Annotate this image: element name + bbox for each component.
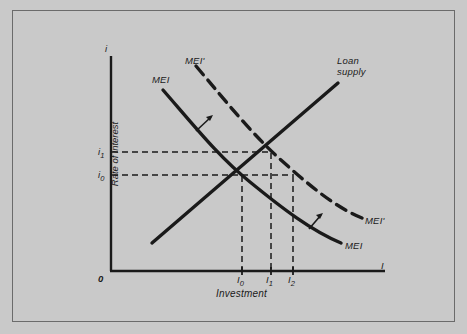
curve-label-loan-supply-line1: Loan [337,55,359,66]
shift-arrow-lower [309,213,323,229]
y-tick-i0-sub: 0 [100,174,104,183]
x-tick-label-I2: I2 [288,274,295,288]
curve-label-loan-supply-line2: supply [337,66,366,77]
curve-label-mei-right: MEI [345,240,363,251]
x-tick-label-I0: I0 [237,274,244,288]
curve-label-mei-prime-left: MEI' [185,55,205,66]
curve-mei-prime [196,66,362,218]
x-tick-I1-sub: 1 [269,279,273,288]
y-tick-label-i1: i1 [98,146,105,160]
curve-label-mei-prime-right: MEI' [365,215,385,226]
y-tick-label-i0: i0 [98,169,105,183]
curve-label-mei-left: MEI [152,74,170,85]
plot-canvas [0,0,467,334]
x-axis-tip-label: I [381,260,384,271]
shift-arrow-upper [196,115,213,131]
origin-label: 0 [98,273,103,284]
y-axis-title: Rate of interest [109,104,120,204]
x-axis-title: Investment [216,288,267,299]
y-axis-tip-label: i [105,43,107,54]
y-tick-i1-sub: 1 [100,151,104,160]
x-tick-I2-sub: 2 [291,279,295,288]
economics-diagram-figure: i I 0 Rate of interest Investment i1 i0 … [0,0,467,334]
x-tick-label-I1: I1 [266,274,273,288]
x-tick-I0-sub: 0 [240,279,244,288]
curve-mei [163,90,341,243]
